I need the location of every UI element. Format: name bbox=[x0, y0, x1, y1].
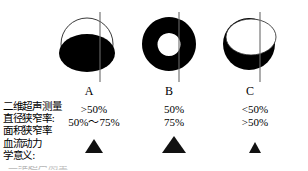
value-area-b: 75% bbox=[135, 116, 213, 129]
value-column-b: 50% 75% bbox=[135, 103, 213, 128]
triangle-medium-icon bbox=[85, 136, 103, 153]
diagram-row: A B C bbox=[0, 0, 308, 96]
concentric-plaque-icon bbox=[135, 8, 213, 86]
value-column-a: >50% 50%～75% bbox=[55, 103, 133, 128]
value-diameter-c: <50% bbox=[216, 103, 294, 116]
residual-lumen bbox=[226, 19, 276, 55]
bottom-caption-strip: 二维超声测量 bbox=[0, 166, 308, 171]
figure-label-a: A bbox=[50, 85, 128, 97]
triangle-large-icon bbox=[162, 133, 186, 153]
value-diameter-b: 50% bbox=[135, 103, 213, 116]
figure-a: A bbox=[55, 8, 133, 96]
plaque-fill bbox=[59, 34, 115, 72]
value-area-a: 50%～75% bbox=[55, 116, 133, 129]
bottom-caption-text: 二维超声测量 bbox=[8, 166, 68, 171]
crescent-plaque-icon bbox=[216, 8, 294, 86]
value-area-c: >50% bbox=[216, 116, 294, 129]
severity-marker-a bbox=[55, 131, 133, 155]
stenosis-diagram-page: A B C 二维超声测量 直径狭窄率: 面积狭窄率 血流动力 学意义: bbox=[0, 0, 308, 171]
figure-c: C bbox=[216, 8, 294, 96]
figure-label-c: C bbox=[211, 85, 289, 97]
plaque-annulus bbox=[142, 17, 196, 71]
eccentric-plaque-icon bbox=[55, 8, 133, 86]
value-diameter-a: >50% bbox=[55, 103, 133, 116]
severity-marker-c bbox=[216, 131, 294, 155]
triangle-small-icon bbox=[249, 139, 261, 153]
figure-label-b: B bbox=[130, 85, 208, 97]
figure-b: B bbox=[135, 8, 213, 96]
severity-marker-b bbox=[135, 131, 213, 155]
value-column-c: <50% >50% bbox=[216, 103, 294, 128]
